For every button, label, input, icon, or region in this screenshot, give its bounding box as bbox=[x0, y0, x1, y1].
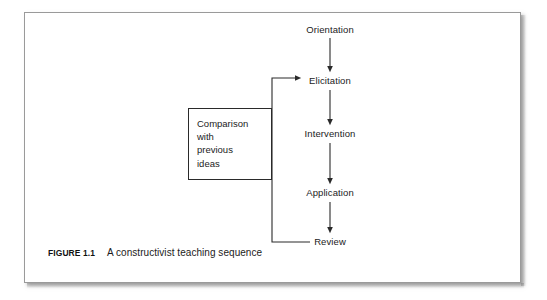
figure-caption-number: FIGURE 1.1 bbox=[48, 248, 95, 258]
node-orientation: Orientation bbox=[306, 24, 354, 35]
comparison-box: Comparison with previous ideas bbox=[188, 108, 272, 180]
node-elicitation: Elicitation bbox=[309, 75, 351, 86]
comparison-box-line-2: with bbox=[197, 130, 248, 143]
comparison-box-label: Comparison with previous ideas bbox=[197, 117, 248, 170]
figure-frame bbox=[24, 12, 521, 283]
comparison-box-line-1: Comparison bbox=[197, 117, 248, 130]
page-shadow-bottom bbox=[27, 283, 524, 288]
comparison-box-line-3: previous bbox=[197, 143, 248, 156]
node-review: Review bbox=[314, 236, 346, 247]
node-intervention: Intervention bbox=[305, 128, 356, 139]
figure-caption: FIGURE 1.1 A constructivist teaching seq… bbox=[48, 247, 262, 258]
figure-caption-text: A constructivist teaching sequence bbox=[107, 247, 262, 258]
page-shadow-right bbox=[521, 15, 526, 286]
node-application: Application bbox=[306, 187, 354, 198]
comparison-box-line-4: ideas bbox=[197, 157, 248, 170]
